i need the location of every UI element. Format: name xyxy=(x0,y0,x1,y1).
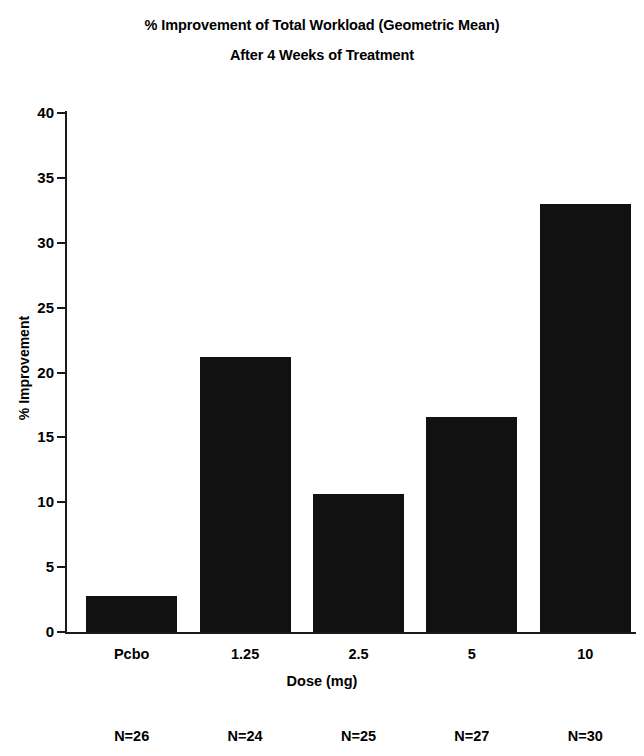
group-size-label: N=25 xyxy=(309,727,409,745)
x-axis-title: Dose (mg) xyxy=(0,673,644,689)
y-axis-tick-label: 5 xyxy=(10,559,54,574)
y-axis-tick xyxy=(57,242,66,244)
bar xyxy=(426,417,517,632)
x-axis-tick-label: 5 xyxy=(422,645,522,663)
y-axis-tick xyxy=(57,501,66,503)
y-axis-tick-label: 10 xyxy=(10,494,54,509)
y-axis-tick xyxy=(57,631,66,633)
x-axis-tick-label: 10 xyxy=(535,645,635,663)
y-axis-tick xyxy=(57,112,66,114)
y-axis-tick-label: 40 xyxy=(10,105,54,120)
group-size-label: N=26 xyxy=(82,727,182,745)
y-axis-tick-label: 35 xyxy=(10,170,54,185)
bar xyxy=(540,204,631,632)
y-axis-title: % Improvement xyxy=(16,288,32,448)
bar-chart: 0510152025303540 % Improvement Pcbo1.252… xyxy=(0,0,644,756)
plot-area xyxy=(67,113,634,632)
bar xyxy=(200,357,291,632)
x-axis-tick-label: Pcbo xyxy=(82,645,182,663)
y-axis-tick-label: 0 xyxy=(10,624,54,639)
y-axis-tick-label: 30 xyxy=(10,235,54,250)
x-axis-line xyxy=(65,632,636,634)
group-size-label: N=27 xyxy=(422,727,522,745)
y-axis-tick xyxy=(57,566,66,568)
y-axis-tick xyxy=(57,436,66,438)
group-size-label: N=24 xyxy=(195,727,295,745)
y-axis-tick xyxy=(57,372,66,374)
y-axis-tick xyxy=(57,307,66,309)
x-axis-tick-label: 2.5 xyxy=(309,645,409,663)
x-axis-tick-label: 1.25 xyxy=(195,645,295,663)
y-axis-tick xyxy=(57,177,66,179)
bar xyxy=(86,596,177,632)
bar xyxy=(313,494,404,632)
group-size-label: N=30 xyxy=(535,727,635,745)
